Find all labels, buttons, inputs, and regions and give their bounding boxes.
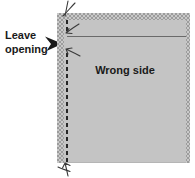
wrong-side-label: Wrong side	[64, 64, 186, 76]
bottom-thread-tail-icon	[63, 163, 71, 176]
bottom-thread-tail-icon	[58, 167, 70, 172]
stitch-line-above-opening	[66, 20, 68, 31]
leave-opening-label: Leave opening	[5, 28, 55, 56]
fabric-square: Wrong side	[57, 13, 190, 163]
fabric-wrong-side-area	[64, 20, 186, 163]
sewing-diagram: Leave opening Wrong side	[0, 0, 195, 178]
top-seam-line	[67, 36, 186, 37]
